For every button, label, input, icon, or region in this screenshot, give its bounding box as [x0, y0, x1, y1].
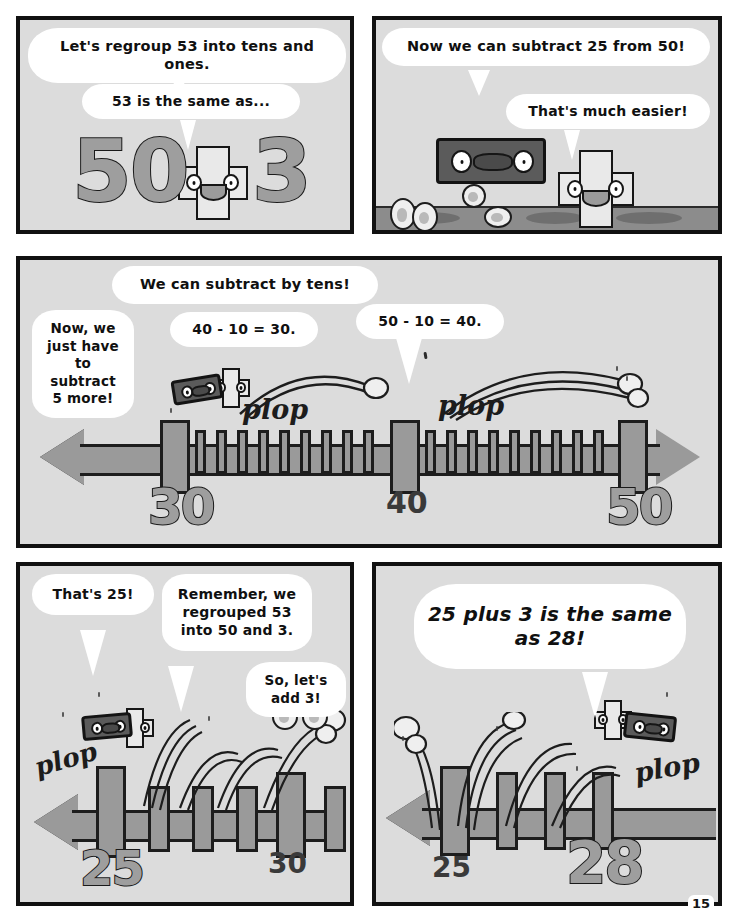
tick-minor	[279, 430, 290, 474]
sound-effect-plop: plop	[242, 394, 308, 425]
bubble-tail	[168, 666, 194, 712]
speech-bubble-subtract-by-tens: We can subtract by tens!	[112, 266, 378, 304]
speech-bubble-40-minus-10: 40 - 10 = 30.	[170, 312, 318, 347]
mouth-icon	[200, 184, 227, 201]
splash-arcs	[394, 712, 654, 832]
tick-minor	[467, 430, 478, 474]
tick-minor	[321, 430, 332, 474]
dust-speck	[496, 726, 498, 731]
sound-effect-plop: plop	[438, 390, 504, 421]
comic-page: Let's regroup 53 into tens and ones. 53 …	[0, 0, 738, 924]
tick-minor	[237, 430, 248, 474]
tick-minor	[593, 430, 604, 474]
tens-rod-character	[623, 711, 677, 742]
mouth-icon	[191, 384, 211, 398]
dust-speck	[62, 712, 64, 717]
mouth-icon	[643, 722, 663, 735]
dust-speck	[98, 692, 100, 697]
tick-minor	[446, 430, 457, 474]
tick-minor	[300, 430, 311, 474]
tick-minor	[551, 430, 562, 474]
bubble-tail	[396, 338, 422, 384]
left-eye-icon	[451, 150, 472, 173]
scatter-blob	[462, 184, 486, 208]
numeral-50: 50	[72, 128, 188, 214]
right-eye-icon	[513, 150, 534, 173]
numeral-25: 25	[80, 844, 143, 892]
speech-bubble-thats-25: That's 25!	[32, 574, 154, 615]
scatter-blob	[484, 206, 512, 228]
dust-speck	[402, 736, 404, 741]
bubble-tail	[582, 672, 608, 718]
dust-speck	[626, 376, 628, 381]
numeral-25: 25	[432, 854, 471, 882]
ones-cube-character	[558, 150, 630, 224]
speech-bubble-25-plus-3-is-28: 25 plus 3 is the same as 28!	[414, 584, 686, 669]
mouth-icon	[582, 190, 610, 207]
speech-bubble-53-same-as: 53 is the same as...	[82, 84, 300, 119]
panel-answer-28: 25 plus 3 is the same as 28! plop	[372, 562, 722, 906]
dust-speck	[576, 766, 578, 771]
scatter-blob	[412, 202, 438, 232]
panel-thats-25-add-3: That's 25! Remember, we regrouped 53 int…	[16, 562, 354, 906]
bubble-tail	[180, 120, 196, 150]
tick-minor	[258, 430, 269, 474]
tick-minor	[216, 430, 227, 474]
tick-minor	[195, 430, 206, 474]
panel-subtract-25-from-50: Now we can subtract 25 from 50! That's m…	[372, 16, 722, 234]
numeral-3: 3	[252, 128, 310, 214]
dust-speck	[616, 366, 618, 371]
panel-subtract-by-tens: We can subtract by tens! Now, we just ha…	[16, 256, 722, 548]
speech-bubble-subtract-5-more: Now, we just have to subtract 5 more!	[32, 310, 134, 418]
tick-minor	[363, 430, 374, 474]
arrow-left-icon	[40, 429, 84, 485]
bubble-tail	[468, 70, 490, 96]
speech-bubble-subtract-25-from-50: Now we can subtract 25 from 50!	[382, 28, 710, 66]
dust-speck	[208, 716, 210, 721]
speech-bubble-50-minus-10: 50 - 10 = 40.	[356, 304, 504, 339]
tick-minor	[488, 430, 499, 474]
tick-minor	[572, 430, 583, 474]
tens-rod-character	[436, 138, 546, 184]
tick-minor	[530, 430, 541, 474]
number-line	[40, 422, 700, 492]
bubble-tail	[80, 630, 106, 676]
tick-minor	[509, 430, 520, 474]
speech-bubble-lets-add-3: So, let's add 3!	[246, 662, 346, 717]
panel-regroup-53: Let's regroup 53 into tens and ones. 53 …	[16, 16, 354, 234]
ones-cube-character	[178, 146, 244, 216]
right-eye-icon	[608, 180, 624, 198]
numeral-28: 28	[566, 834, 643, 892]
speech-bubble-regroup-53: Let's regroup 53 into tens and ones.	[28, 28, 346, 83]
mouth-icon	[473, 153, 513, 171]
numeral-30: 30	[268, 850, 307, 878]
tick-minor	[425, 430, 436, 474]
tick-minor	[342, 430, 353, 474]
tick-40	[390, 420, 420, 494]
sound-effect-plop: plop	[31, 736, 100, 782]
numeral-50: 50	[606, 482, 672, 532]
numeral-40: 40	[386, 488, 428, 518]
dust-speck	[170, 408, 172, 413]
dust-speck	[666, 692, 668, 697]
speech-bubble-remember-regrouped: Remember, we regrouped 53 into 50 and 3.	[162, 574, 312, 651]
page-number: 15	[688, 895, 714, 912]
numeral-30: 30	[148, 482, 214, 532]
arrow-right-icon	[656, 429, 700, 485]
speech-bubble-much-easier: That's much easier!	[506, 94, 710, 129]
bubble-tail	[564, 130, 580, 160]
left-eye-icon	[567, 180, 583, 198]
